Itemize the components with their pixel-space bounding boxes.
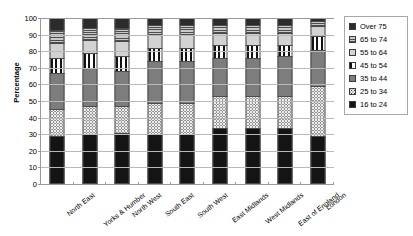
y-axis-tick-label: 100 [24, 14, 37, 23]
legend-swatch-icon [349, 101, 356, 108]
legend-swatch-icon [349, 62, 356, 69]
bar-segment[interactable] [50, 18, 65, 30]
bar-segment[interactable] [213, 18, 228, 25]
x-axis-tick-mark [73, 182, 74, 185]
bar-segment[interactable] [245, 25, 260, 33]
y-axis-tick-mark [38, 68, 41, 69]
legend-item-label: 35 to 44 [360, 75, 387, 83]
bar-segment[interactable] [180, 18, 195, 25]
bar-segment[interactable] [310, 86, 325, 136]
bar-segment[interactable] [82, 18, 97, 28]
legend-item[interactable]: 16 to 24 [349, 98, 404, 111]
bar-segment[interactable] [147, 48, 162, 61]
bar-segment[interactable] [50, 136, 65, 184]
grid-line [41, 134, 334, 135]
legend-item-label: 25 to 34 [360, 88, 387, 96]
y-axis-tick-mark [38, 51, 41, 52]
bar-segment[interactable] [147, 35, 162, 48]
bar-segment[interactable] [50, 30, 65, 43]
x-axis-tick-mark [235, 182, 236, 185]
bar-segment[interactable] [245, 18, 260, 25]
bar-segment[interactable] [50, 58, 65, 73]
grid-line [41, 18, 334, 19]
bar-segment[interactable] [147, 18, 162, 25]
stacked-bar-chart: Percentage 0102030405060708090100 North … [0, 0, 413, 236]
y-axis-tick-label: 90 [29, 30, 37, 39]
bar-segment[interactable] [245, 128, 260, 184]
bar-segment[interactable] [82, 106, 97, 134]
bar-segment[interactable] [310, 136, 325, 184]
legend-item[interactable]: 35 to 44 [349, 72, 404, 85]
bar-segment[interactable] [50, 109, 65, 136]
bar-segment[interactable] [278, 18, 293, 25]
legend-item[interactable]: 65 to 74 [349, 33, 404, 46]
bar-segment[interactable] [180, 25, 195, 35]
grid-line [41, 35, 334, 36]
legend-item[interactable]: Over 75 [349, 20, 404, 33]
bar-segment[interactable] [115, 106, 130, 133]
bar-segment[interactable] [213, 58, 228, 96]
y-axis-tick-mark [38, 18, 41, 19]
bar-segment[interactable] [115, 41, 130, 56]
y-axis-tick-mark [38, 35, 41, 36]
grid-line [41, 101, 334, 102]
y-axis-tick-label: 0 [33, 180, 37, 189]
bar-segment[interactable] [310, 21, 325, 26]
bar-segment[interactable] [278, 56, 293, 96]
legend-item[interactable]: 55 to 64 [349, 46, 404, 59]
legend-swatch-icon [349, 49, 356, 56]
legend-swatch-icon [349, 88, 356, 95]
y-axis-tick-label: 60 [29, 80, 37, 89]
y-axis-tick-label: 70 [29, 63, 37, 72]
bar-segment[interactable] [50, 73, 65, 110]
y-axis-tick-label: 20 [29, 146, 37, 155]
grid-line [41, 68, 334, 69]
bar-segment[interactable] [115, 133, 130, 184]
y-axis-title: Percentage [12, 43, 21, 123]
grid-line [41, 151, 334, 152]
y-axis-tick-mark [38, 101, 41, 102]
bar-segment[interactable] [278, 25, 293, 33]
bar-segment[interactable] [310, 36, 325, 49]
y-axis-tick-label: 80 [29, 47, 37, 56]
x-axis-tick-mark [203, 182, 204, 185]
x-axis-labels: North EastYorks & HumberNorth WestSouth … [40, 186, 333, 236]
x-axis-tick-label: North East [66, 191, 96, 217]
x-axis-tick-mark [105, 182, 106, 185]
bar-segment[interactable] [180, 134, 195, 184]
bar-segment[interactable] [147, 134, 162, 184]
bar-segment[interactable] [147, 25, 162, 35]
bar-segment[interactable] [278, 128, 293, 184]
bar-segment[interactable] [213, 128, 228, 184]
legend-item-label: 65 to 74 [360, 36, 387, 44]
bar-segment[interactable] [180, 48, 195, 61]
y-axis-tick-mark [38, 118, 41, 119]
bar-segment[interactable] [180, 35, 195, 48]
y-axis-tick-label: 40 [29, 113, 37, 122]
bar-segment[interactable] [115, 18, 130, 28]
grid-line [41, 118, 334, 119]
x-axis-tick-mark [300, 182, 301, 185]
bar-segment[interactable] [82, 53, 97, 68]
legend-item-label: Over 75 [360, 23, 387, 31]
y-axis-tick-mark [38, 134, 41, 135]
chart-legend: Over 7565 to 7455 to 6445 to 5435 to 442… [344, 16, 408, 115]
legend-swatch-icon [349, 23, 356, 30]
legend-item[interactable]: 25 to 34 [349, 85, 404, 98]
bar-segment[interactable] [245, 58, 260, 96]
bar-segment[interactable] [115, 56, 130, 71]
legend-item-label: 55 to 64 [360, 49, 387, 57]
legend-swatch-icon [349, 36, 356, 43]
x-axis-tick-mark [333, 182, 334, 185]
plot-area: 0102030405060708090100 [40, 18, 334, 185]
x-axis-tick-label: South East [164, 191, 195, 218]
bar-segment[interactable] [213, 25, 228, 33]
y-axis-tick-mark [38, 151, 41, 152]
legend-item-label: 16 to 24 [360, 101, 387, 109]
legend-item-label: 45 to 54 [360, 62, 387, 70]
legend-item[interactable]: 45 to 54 [349, 59, 404, 72]
grid-line [41, 84, 334, 85]
legend-swatch-icon [349, 75, 356, 82]
bar-segment[interactable] [82, 134, 97, 184]
y-axis-tick-mark [38, 84, 41, 85]
